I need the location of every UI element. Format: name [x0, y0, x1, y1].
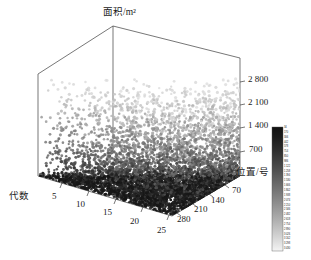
colorbar-tick: 3 026 [284, 234, 290, 237]
colorbar-tick: 2 618 [284, 219, 290, 222]
colorbar-tick: 986 [284, 161, 288, 164]
scatter-points [39, 77, 311, 217]
x-tick-5: 5 [52, 192, 57, 201]
colorbar-tick: 578 [284, 146, 288, 149]
colorbar-tick: 850 [284, 156, 288, 159]
x-tick-25: 25 [157, 226, 166, 235]
z-tick-2800: 2 800 [248, 75, 268, 84]
colorbar-tick: 714 [284, 151, 288, 154]
z-tick-2100: 2 100 [248, 98, 268, 107]
x-tick-20: 20 [130, 217, 139, 226]
colorbar-tick: 2 210 [284, 205, 290, 208]
x-axis-title: 代数 [9, 192, 29, 202]
z-tick-700: 700 [249, 145, 263, 154]
colorbar-gradient [272, 127, 283, 251]
colorbar-tick: 2 754 [284, 224, 290, 227]
colorbar-tick: 3 430 [284, 248, 290, 251]
colorbar-tick: 2 890 [284, 229, 290, 232]
colorbar-tick: 2 482 [284, 214, 290, 217]
z-tick-1400: 1 400 [248, 121, 268, 130]
x-tick-10: 10 [76, 200, 85, 209]
colorbar-tick: 1 530 [284, 180, 290, 183]
colorbar-tick: 3 162 [284, 238, 290, 241]
colorbar-tick: 1 394 [284, 175, 290, 178]
colorbar-tick: 170 [284, 132, 288, 135]
z-axis-title: 面积/m² [103, 8, 136, 18]
colorbar-tick: 1 666 [284, 185, 290, 188]
colorbar-tick: 34 [284, 127, 287, 130]
colorbar-tick: 306 [284, 137, 288, 140]
scatter3d-figure: 面积/m² 代数 位置/号 2 800 2 100 1 400 700 5 10… [0, 0, 311, 260]
y-tick-140: 140 [211, 196, 225, 205]
colorbar-tick: 1 938 [284, 195, 290, 198]
colorbar-tick: 1 122 [284, 166, 290, 169]
plot-canvas [0, 0, 311, 260]
z-axis-ticks [240, 81, 245, 152]
y-axis-title: 位置/号 [236, 168, 269, 178]
x-tick-15: 15 [103, 208, 112, 217]
y-tick-210: 210 [194, 205, 208, 214]
y-tick-280: 280 [177, 215, 191, 224]
colorbar-tick: 1 802 [284, 190, 290, 193]
colorbar-tick: 2 074 [284, 200, 290, 203]
colorbar-tick: 2 346 [284, 209, 290, 212]
colorbar-tick: 1 258 [284, 171, 290, 174]
colorbar-tick: 442 [284, 142, 288, 145]
y-tick-70: 70 [232, 186, 241, 195]
colorbar-tick-labels: 341703064425787148509861 1221 2581 3941 … [284, 127, 310, 251]
colorbar-tick: 3 298 [284, 243, 290, 246]
